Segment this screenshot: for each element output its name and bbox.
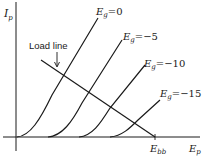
plate-characteristics-diagram: Ip Load line Eg=0 Eg=−5 Eg=−10 Eg=−15 Eb… [0,0,204,157]
curve-eg-minus-10 [79,65,145,137]
curve-eg-0 [17,18,98,137]
x-axis-label: Ep [188,143,201,156]
curve-label-eg-0: Eg=0 [95,6,123,19]
supply-voltage-label: Ebb [149,143,167,156]
curve-label-eg-minus-15: Eg=−15 [159,88,201,101]
y-axis-label: Ip [3,7,13,22]
load-line-label: Load line [29,40,68,51]
curve-label-eg-minus-10: Eg=−10 [143,58,185,71]
curve-eg-minus-5 [48,40,122,137]
curve-eg-minus-15 [110,100,160,137]
curve-label-eg-minus-5: Eg=−5 [122,31,158,44]
